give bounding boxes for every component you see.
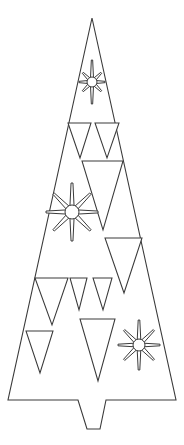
snowflake-middle-left-hub <box>65 205 79 219</box>
snowflake-middle-left-ray-4 <box>70 217 74 241</box>
christmas-tree-illustration <box>0 0 184 445</box>
snowflake-middle-left-ray-2 <box>77 210 98 214</box>
snowflake-top-ray-4 <box>91 86 94 104</box>
artboard <box>0 0 184 445</box>
snowflake-bottom-right-hub <box>133 339 145 351</box>
snowflake-bottom-right-ray-4 <box>137 350 141 371</box>
snowflake-bottom-right-ray-6 <box>118 343 135 347</box>
snowflake-top-hub <box>87 77 97 87</box>
snowflake-middle-left-ray-0 <box>70 183 74 207</box>
snowflake-top-ray-0 <box>91 60 94 78</box>
snowflake-middle-left-ray-6 <box>46 210 67 214</box>
snowflake-bottom-right-ray-2 <box>144 343 161 347</box>
snowflake-bottom-right-ray-0 <box>137 320 141 341</box>
